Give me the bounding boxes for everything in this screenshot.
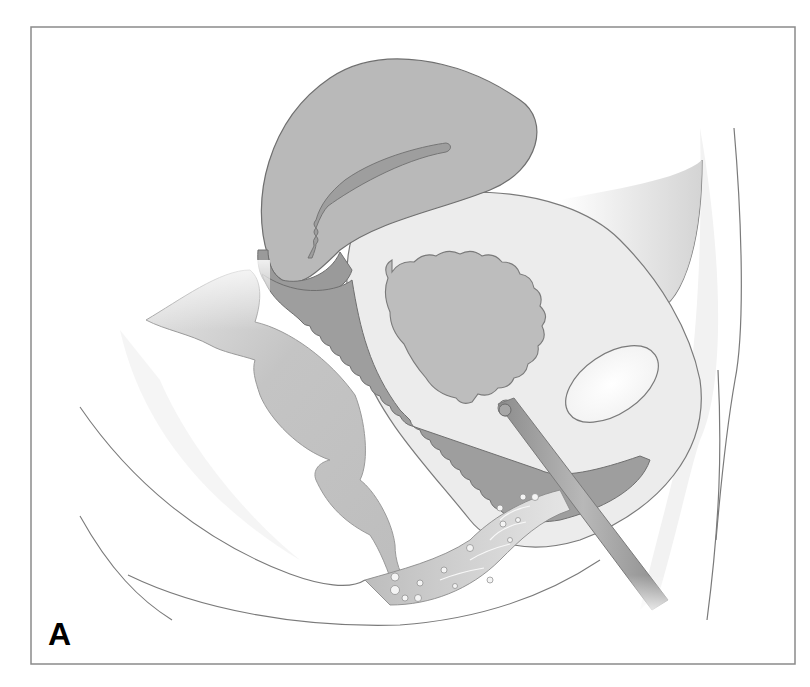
anatomy-figure [0, 0, 810, 687]
panel-label: A [48, 618, 71, 650]
catheter-fade [600, 575, 690, 620]
rectum-fade [140, 260, 270, 330]
